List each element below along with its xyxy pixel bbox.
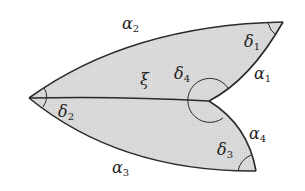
label-alpha1: α1 (254, 66, 271, 84)
label-delta2: δ2 (58, 104, 74, 122)
label-xi: ξ (140, 72, 149, 88)
label-delta3: δ3 (217, 142, 233, 160)
diagram: α2 δ1 α1 ξ δ4 δ2 α4 δ3 α3 (0, 0, 305, 191)
figure-svg (0, 0, 305, 191)
label-alpha2: α2 (122, 16, 139, 34)
label-delta1: δ1 (244, 34, 260, 52)
label-delta4: δ4 (174, 66, 190, 84)
label-alpha4: α4 (249, 126, 266, 144)
label-alpha3: α3 (112, 160, 129, 178)
